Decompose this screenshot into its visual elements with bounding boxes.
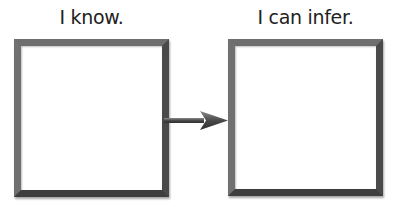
right-box-label: I can infer. [228, 6, 383, 28]
i-can-infer-box[interactable] [228, 39, 383, 196]
arrow-right-icon [164, 109, 228, 131]
i-know-box[interactable] [14, 39, 169, 197]
left-box-label: I know. [14, 6, 169, 28]
